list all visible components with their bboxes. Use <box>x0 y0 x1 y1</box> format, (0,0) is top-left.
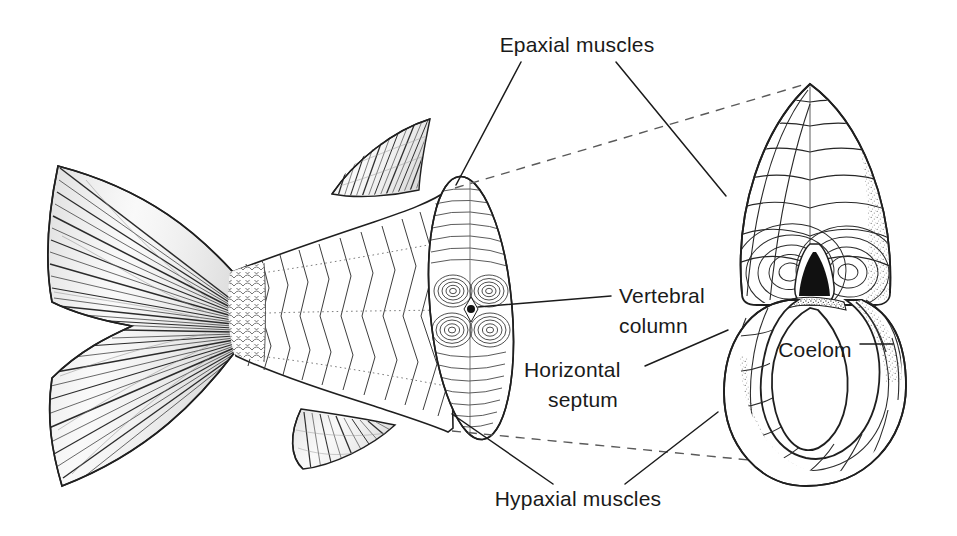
label-horizontal-septum-line1: Horizontal <box>524 358 621 381</box>
label-vertebral-column-line2: column <box>619 314 688 337</box>
label-coelom: Coelom <box>778 338 852 361</box>
fish-anatomy-illustration: Epaxial muscles Vertebral column Horizon… <box>0 0 957 536</box>
label-hypaxial-muscles: Hypaxial muscles <box>495 487 662 510</box>
scale-patch <box>228 263 265 362</box>
figure-root: Epaxial muscles Vertebral column Horizon… <box>0 0 957 536</box>
label-epaxial-muscles: Epaxial muscles <box>500 33 655 56</box>
label-horizontal-septum-line2: septum <box>548 388 618 411</box>
label-vertebral-column-line1: Vertebral <box>619 284 705 307</box>
